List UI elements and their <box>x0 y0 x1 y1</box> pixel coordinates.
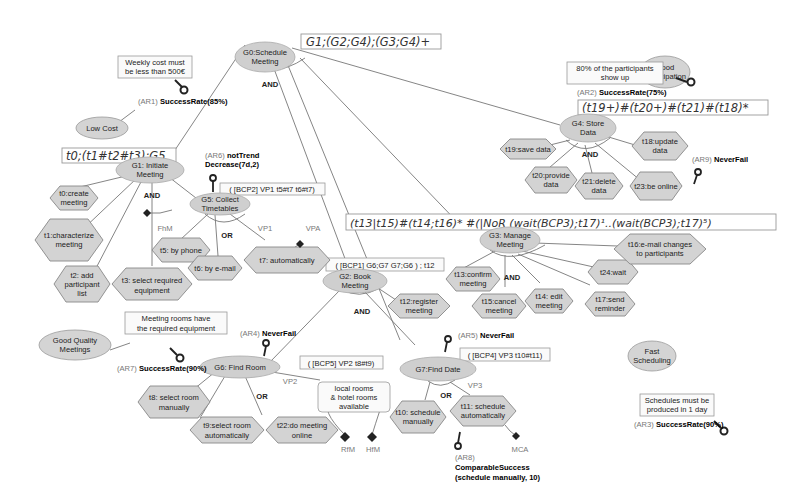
svg-text:t3: select required: t3: select required <box>122 276 182 285</box>
svg-text:meeting: meeting <box>55 240 82 249</box>
awreq-ar3[interactable]: (AR3) SuccessRate(90%) <box>634 420 724 429</box>
svg-text:Meeting: Meeting <box>496 240 523 249</box>
svg-text:t14: edit: t14: edit <box>535 292 563 301</box>
task-t20[interactable]: t20:provide data <box>525 167 577 193</box>
goal-g3-manage-meeting[interactable]: G3: Manage Meeting <box>480 227 540 253</box>
awreq-ar6[interactable]: (AR6) notTrend Decrease(7d,2) <box>205 151 260 169</box>
svg-text:reminder: reminder <box>595 304 625 313</box>
goal-g7-find-date[interactable]: G7:Find Date <box>400 357 476 381</box>
task-t2[interactable]: t2: add participant list <box>54 266 110 302</box>
task-t3[interactable]: t3: select required equipment <box>112 268 192 300</box>
svg-text:meeting: meeting <box>535 301 562 310</box>
decomp-g6: OR <box>256 392 268 401</box>
task-t10[interactable]: t10: schedule manually <box>390 401 446 433</box>
svg-text:Schedules must be: Schedules must be <box>645 396 710 405</box>
awreq-ar2[interactable]: (AR2) SuccessRate(75%) <box>577 88 667 97</box>
svg-text:t8: select room: t8: select room <box>149 393 199 402</box>
svg-text:G1: Initiate: G1: Initiate <box>132 161 169 170</box>
svg-text:participant: participant <box>64 280 100 289</box>
softgoal-fast-scheduling[interactable]: Fast Scheduling <box>628 341 676 371</box>
svg-text:t1:characterize: t1:characterize <box>44 231 94 240</box>
task-t19[interactable]: t19:save data <box>500 139 556 159</box>
svg-text:80% of the participants: 80% of the participants <box>576 64 653 73</box>
svg-text:( [BCP4] VP3 t10#t11): ( [BCP4] VP3 t10#t11) <box>468 351 543 360</box>
svg-text:t6: by e-mail: t6: by e-mail <box>194 264 236 273</box>
task-t0[interactable]: t0:create meeting <box>50 186 98 210</box>
goal-g4-store-data[interactable]: G4: Store Data <box>560 114 616 142</box>
task-t11[interactable]: t11: schedule automatically <box>450 396 516 426</box>
awreq-ar4[interactable]: (AR4) NeverFail <box>240 329 296 338</box>
expression-g2: ( [BCP1] G6;G7 G7;G6 ) ; t12 <box>326 258 444 271</box>
awreq-ar7[interactable]: (AR7) SuccessRate(90%) <box>117 364 207 373</box>
svg-text:Decrease(7d,2): Decrease(7d,2) <box>205 160 260 169</box>
context-mca: MCA <box>512 432 530 454</box>
decomp-g0: AND <box>262 80 279 89</box>
task-t16[interactable]: t16:e-mail changes to participants <box>614 234 706 264</box>
svg-text:available: available <box>339 402 369 411</box>
svg-text:FhM: FhM <box>157 224 172 233</box>
svg-text:online: online <box>292 431 312 440</box>
svg-text:t19:save data: t19:save data <box>505 145 551 154</box>
task-t15[interactable]: t15:cancel meeting <box>472 294 526 318</box>
svg-text:t9:select room: t9:select room <box>203 421 251 430</box>
goal-g1-initiate-meeting[interactable]: G1: Initiate Meeting <box>116 157 184 183</box>
qc-good-quality: Meeting rooms have the required equipmen… <box>125 312 227 334</box>
goal-g6-find-room[interactable]: G6: Find Room <box>200 356 280 378</box>
task-t23[interactable]: t23:be online <box>630 172 682 200</box>
pin-icon-ar4 <box>263 340 269 356</box>
svg-text:Meeting: Meeting <box>136 170 163 179</box>
svg-text:t18:update: t18:update <box>642 137 678 146</box>
task-t13[interactable]: t13:confirm meeting <box>446 267 500 291</box>
svg-text:t2: add: t2: add <box>70 271 93 280</box>
svg-text:( [BCP5] VP2 t8#t9): ( [BCP5] VP2 t8#t9) <box>308 359 375 368</box>
key-icon-ar1 <box>175 80 188 94</box>
decomp-g2: AND <box>354 307 371 316</box>
svg-text:t21:delete: t21:delete <box>582 177 615 186</box>
svg-text:(AR6) notTrend: (AR6) notTrend <box>205 151 260 160</box>
task-t22[interactable]: t22:do meeting online <box>266 417 338 443</box>
task-t6[interactable]: t6: by e-mail <box>188 256 242 280</box>
task-t8[interactable]: t8: select room manually <box>138 386 210 418</box>
svg-text:t0:create: t0:create <box>59 189 89 198</box>
context-vpa: VPA <box>296 224 321 248</box>
context-rfm: RfM <box>340 432 355 454</box>
svg-text:Low Cost: Low Cost <box>86 124 119 133</box>
awreq-ar8[interactable]: (AR8) ComparableSuccess (schedule manual… <box>455 453 541 482</box>
svg-text:HfM: HfM <box>366 445 380 454</box>
task-t18[interactable]: t18:update data <box>632 132 688 160</box>
svg-text:t24:wait: t24:wait <box>600 268 627 277</box>
softgoal-good-quality-meetings[interactable]: Good Quality Meetings <box>39 330 111 360</box>
svg-text:produced in 1 day: produced in 1 day <box>647 405 708 414</box>
task-t7[interactable]: t7: automatically <box>244 247 330 273</box>
svg-text:G7:Find Date: G7:Find Date <box>415 365 460 374</box>
expression-g5: ( [BCP2] VP1 t5#t7 t6#t7) <box>220 183 325 195</box>
diamond-icon <box>367 432 377 442</box>
softgoal-low-cost[interactable]: Low Cost <box>76 117 128 139</box>
task-t1[interactable]: t1:characterize meeting <box>35 219 103 261</box>
svg-text:(t13|t15)#(t14;t16)* #(|NoR (w: (t13|t15)#(t14;t16)* #(|NoR (wait(BCP3);… <box>350 217 712 230</box>
expression-g4: (t19+)#(t20+)#(t21)#(t18)* <box>578 100 768 115</box>
task-t9[interactable]: t9:select room automatically <box>190 417 264 443</box>
task-t17[interactable]: t17:send reminder <box>585 292 635 316</box>
svg-text:( [BCP1] G6;G7 G7;G6 ) ; t12: ( [BCP1] G6;G7 G7;G6 ) ; t12 <box>335 261 434 270</box>
svg-text:(AR1) SuccessRate(85%): (AR1) SuccessRate(85%) <box>138 97 228 106</box>
goal-g5-collect-timetables[interactable]: G5: Collect Timetables <box>190 193 250 215</box>
svg-text:Timetables: Timetables <box>202 204 239 213</box>
svg-text:t17:send: t17:send <box>595 295 624 304</box>
svg-text:data: data <box>592 186 608 195</box>
expression-g3: (t13|t15)#(t14;t16)* #(|NoR (wait(BCP3);… <box>346 214 776 230</box>
goal-g0-schedule-meeting[interactable]: G0:Schedule Meeting <box>235 42 295 72</box>
awreq-ar9[interactable]: (AR9) NeverFail <box>692 155 748 164</box>
context-hfm: HfM <box>366 432 380 454</box>
awreq-ar1[interactable]: (AR1) SuccessRate(85%) <box>138 97 228 106</box>
qc-fast-scheduling: Schedules must be produced in 1 day <box>640 394 714 416</box>
svg-text:t22:do meeting: t22:do meeting <box>277 421 327 430</box>
svg-text:RfM: RfM <box>341 445 355 454</box>
task-t12[interactable]: t12:register meeting <box>388 294 450 318</box>
svg-text:meeting: meeting <box>459 279 486 288</box>
goal-g2-book-meeting[interactable]: G2: Book Meeting <box>323 269 387 293</box>
svg-text:G2: Book: G2: Book <box>339 272 371 281</box>
task-t14[interactable]: t14: edit meeting <box>525 289 573 313</box>
awreq-ar5[interactable]: (AR5) NeverFail <box>458 331 514 340</box>
task-t21[interactable]: t21:delete data <box>575 173 623 199</box>
